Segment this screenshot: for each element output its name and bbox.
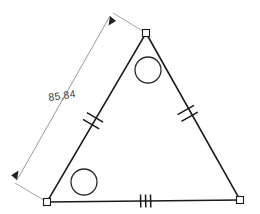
vertex-marker-bottom-left[interactable]	[44, 199, 51, 206]
drawing-canvas: 85,84	[0, 0, 260, 214]
vertex-marker-bottom-right[interactable]	[237, 197, 244, 204]
technical-drawing: 85,84	[0, 0, 260, 214]
vertex-marker-apex[interactable]	[143, 30, 150, 37]
canvas-background	[0, 0, 260, 214]
